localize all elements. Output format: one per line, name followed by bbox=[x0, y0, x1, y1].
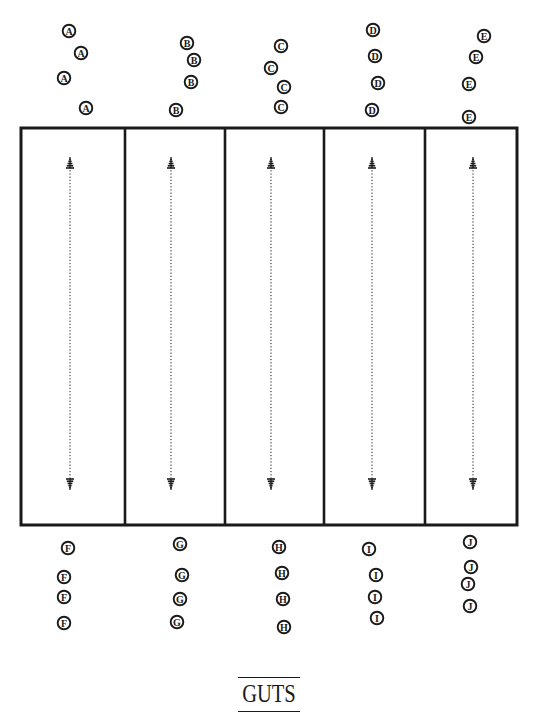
lane-arrow bbox=[368, 157, 376, 490]
svg-text:I: I bbox=[375, 613, 379, 624]
svg-text:B: B bbox=[173, 105, 180, 116]
svg-text:J: J bbox=[468, 537, 473, 548]
svg-text:C: C bbox=[280, 82, 287, 93]
svg-text:D: D bbox=[369, 25, 376, 36]
player-g: G bbox=[174, 538, 187, 551]
player-e: E bbox=[463, 78, 476, 91]
player-b: B bbox=[170, 104, 183, 117]
svg-text:A: A bbox=[82, 103, 90, 114]
player-d: D bbox=[372, 77, 385, 90]
svg-text:H: H bbox=[278, 568, 286, 579]
player-a: A bbox=[75, 47, 88, 60]
svg-text:D: D bbox=[368, 105, 375, 116]
svg-text:I: I bbox=[367, 544, 371, 555]
svg-text:F: F bbox=[61, 618, 67, 629]
svg-text:E: E bbox=[466, 79, 473, 90]
svg-text:B: B bbox=[188, 77, 195, 88]
player-f: F bbox=[58, 571, 71, 584]
svg-text:J: J bbox=[468, 601, 473, 612]
svg-text:J: J bbox=[469, 562, 474, 573]
arrowhead-down-icon bbox=[469, 157, 477, 168]
arrowhead-up-icon bbox=[368, 479, 376, 490]
arrowhead-down-icon bbox=[368, 157, 376, 168]
title-underline bbox=[238, 711, 300, 712]
field-lanes bbox=[21, 128, 517, 525]
svg-text:G: G bbox=[178, 570, 186, 581]
svg-text:I: I bbox=[373, 592, 377, 603]
lane-arrow bbox=[66, 157, 74, 490]
player-a: A bbox=[80, 102, 93, 115]
player-a: A bbox=[63, 25, 76, 38]
svg-text:J: J bbox=[466, 579, 471, 590]
player-h: H bbox=[277, 593, 290, 606]
player-j: J bbox=[462, 578, 475, 591]
svg-text:E: E bbox=[481, 31, 488, 42]
svg-text:F: F bbox=[65, 543, 71, 554]
player-j: J bbox=[464, 600, 477, 613]
svg-text:A: A bbox=[65, 26, 73, 37]
svg-text:G: G bbox=[176, 539, 184, 550]
svg-text:F: F bbox=[61, 592, 67, 603]
player-g: G bbox=[176, 569, 189, 582]
player-h: H bbox=[273, 541, 286, 554]
player-i: I bbox=[363, 543, 376, 556]
player-f: F bbox=[58, 591, 71, 604]
player-e: E bbox=[478, 30, 491, 43]
player-g: G bbox=[171, 616, 184, 629]
title-text: GUTS bbox=[242, 680, 296, 708]
svg-text:C: C bbox=[277, 41, 284, 52]
player-j: J bbox=[464, 536, 477, 549]
arrowhead-up-icon bbox=[469, 479, 477, 490]
svg-text:D: D bbox=[374, 78, 381, 89]
svg-text:E: E bbox=[473, 52, 480, 63]
arrowhead-down-icon bbox=[167, 157, 175, 168]
svg-text:G: G bbox=[176, 594, 184, 605]
svg-text:E: E bbox=[466, 112, 473, 123]
player-c: C bbox=[275, 40, 288, 53]
guts-field-diagram: AAAABBBBCCCCDDDDEEEEFFFFGGGGHHHHIIIIJJJJ bbox=[0, 0, 538, 723]
player-j: J bbox=[465, 561, 478, 574]
player-i: I bbox=[370, 569, 383, 582]
svg-text:C: C bbox=[277, 102, 284, 113]
svg-text:A: A bbox=[77, 48, 85, 59]
svg-text:A: A bbox=[60, 73, 68, 84]
player-h: H bbox=[278, 621, 291, 634]
player-e: E bbox=[470, 51, 483, 64]
player-d: D bbox=[367, 24, 380, 37]
svg-text:D: D bbox=[371, 51, 378, 62]
player-e: E bbox=[463, 111, 476, 124]
player-d: D bbox=[366, 104, 379, 117]
arrowhead-up-icon bbox=[66, 479, 74, 490]
svg-text:H: H bbox=[279, 594, 287, 605]
diagram-title: GUTS bbox=[236, 677, 302, 712]
player-c: C bbox=[265, 62, 278, 75]
player-i: I bbox=[371, 612, 384, 625]
player-h: H bbox=[276, 567, 289, 580]
title-overline bbox=[238, 677, 300, 678]
svg-text:G: G bbox=[173, 617, 181, 628]
player-a: A bbox=[58, 72, 71, 85]
lane-arrow bbox=[267, 157, 275, 490]
svg-text:H: H bbox=[280, 622, 288, 633]
player-f: F bbox=[62, 542, 75, 555]
lane-arrow bbox=[469, 157, 477, 490]
player-b: B bbox=[185, 76, 198, 89]
player-c: C bbox=[278, 81, 291, 94]
player-d: D bbox=[369, 50, 382, 63]
arrowhead-up-icon bbox=[167, 479, 175, 490]
svg-text:I: I bbox=[374, 570, 378, 581]
player-c: C bbox=[275, 101, 288, 114]
player-b: B bbox=[181, 37, 194, 50]
svg-text:B: B bbox=[184, 38, 191, 49]
lane-arrows bbox=[66, 157, 477, 490]
svg-text:F: F bbox=[61, 572, 67, 583]
lane-arrow bbox=[167, 157, 175, 490]
svg-text:B: B bbox=[191, 55, 198, 66]
player-i: I bbox=[369, 591, 382, 604]
arrowhead-up-icon bbox=[267, 479, 275, 490]
player-g: G bbox=[174, 593, 187, 606]
svg-text:C: C bbox=[267, 63, 274, 74]
field-boundary bbox=[21, 128, 517, 525]
arrowhead-down-icon bbox=[267, 157, 275, 168]
player-b: B bbox=[188, 54, 201, 67]
